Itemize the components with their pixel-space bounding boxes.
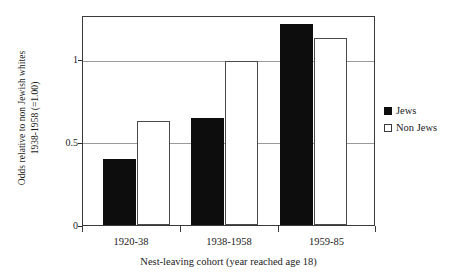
y-axis-title-text: Odds relative to non Jewish whites 1938-… [16, 51, 41, 185]
legend-swatch-open-square-icon [384, 124, 392, 132]
x-tick-end [375, 226, 376, 232]
y-axis-title: Odds relative to non Jewish whites 1938-… [0, 0, 56, 236]
x-axis-title: Nest-leaving cohort (year reached age 18… [82, 256, 375, 267]
x-tick-start [82, 226, 83, 232]
plot-area [82, 16, 375, 226]
y-tick-label-0: 0 [52, 221, 78, 231]
bar-nonjews-1938-1958 [225, 61, 258, 225]
x-category-label-1959-85: 1959-85 [278, 236, 375, 248]
legend-label-jews: Jews [396, 105, 416, 116]
bar-nonjews-1920-38 [137, 121, 170, 225]
bar-jews-1938-1958 [191, 118, 224, 225]
bar-chart-figure: Odds relative to non Jewish whites 1938-… [0, 0, 472, 276]
x-tick-sep-1 [180, 226, 181, 232]
legend-label-non-jews: Non Jews [396, 122, 437, 133]
y-axis-title-line-2: 1938-1958 (=1.00) [28, 51, 41, 185]
bar-jews-1920-38 [103, 159, 136, 225]
y-tick-label-1: 1 [52, 55, 78, 65]
y-axis-title-line-1: Odds relative to non Jewish whites [17, 51, 27, 185]
bar-nonjews-1959-85 [314, 38, 347, 225]
y-tick-label-0.5: 0.5 [52, 138, 78, 148]
x-tick-sep-2 [278, 226, 279, 232]
chart-legend: Jews Non Jews [384, 102, 470, 136]
x-category-label-1938-1958: 1938-1958 [180, 236, 278, 248]
y-axis-tick-labels: 1 0.5 0 [50, 0, 78, 236]
legend-swatch-filled-square-icon [384, 107, 392, 115]
x-category-label-1920-38: 1920-38 [82, 236, 180, 248]
legend-item-jews: Jews [384, 102, 470, 119]
legend-item-non-jews: Non Jews [384, 119, 470, 136]
bar-jews-1959-85 [280, 24, 313, 225]
